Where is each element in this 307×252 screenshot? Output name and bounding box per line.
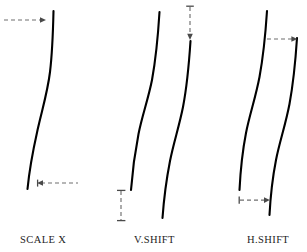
panel-label-scale-x: SCALE X: [20, 234, 66, 245]
transformation-diagram: SCALE X V.SHIFT: [0, 0, 307, 252]
diagram-background: [0, 0, 307, 252]
panel-label-v-shift: V.SHIFT: [134, 234, 175, 245]
panel-label-h-shift: H.SHIFT: [247, 234, 289, 245]
